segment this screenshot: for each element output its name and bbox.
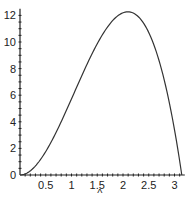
tick-labels: 0.511.522.53024681012 xyxy=(4,9,178,191)
line-chart: 0.511.522.53024681012 ^ xyxy=(0,0,194,206)
y-tick-label: 4 xyxy=(10,116,16,128)
x-tick-label: 2 xyxy=(120,179,126,191)
x-tick-label: 2.5 xyxy=(141,179,156,191)
x-tick-label: 1 xyxy=(68,179,74,191)
data-line xyxy=(20,12,182,175)
x-tick-label: 0.5 xyxy=(38,179,53,191)
y-tick-label: 0 xyxy=(10,169,16,181)
y-tick-label: 12 xyxy=(4,9,16,21)
y-tick-label: 10 xyxy=(4,36,16,48)
y-tick-label: 8 xyxy=(10,63,16,75)
x-tick-label: 3 xyxy=(171,179,177,191)
caret-annotation: ^ xyxy=(97,187,103,199)
y-tick-label: 2 xyxy=(10,142,16,154)
y-tick-label: 6 xyxy=(10,89,16,101)
